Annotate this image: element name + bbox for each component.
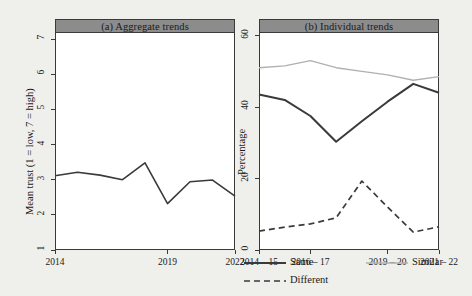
legend-item-different: Different [290, 274, 328, 285]
legend-item-same: Same [290, 256, 313, 267]
chart-legend: Same Similar Different [236, 256, 472, 296]
panel-individual-trends: (b) Individual trends Percentage 0204060… [230, 0, 472, 296]
series-line-different [259, 181, 439, 232]
panel-aggregate-trends: (a) Aggregate trends Mean trust (1 = low… [0, 0, 240, 296]
series-line-mean trust [55, 163, 235, 204]
series-line-same [259, 84, 439, 142]
panel-b-series-layer [230, 0, 472, 296]
panel-a-series-layer [0, 0, 240, 296]
series-line-similar [259, 61, 439, 81]
figure-canvas: (a) Aggregate trends Mean trust (1 = low… [0, 0, 472, 296]
legend-item-similar: Similar [412, 256, 443, 267]
